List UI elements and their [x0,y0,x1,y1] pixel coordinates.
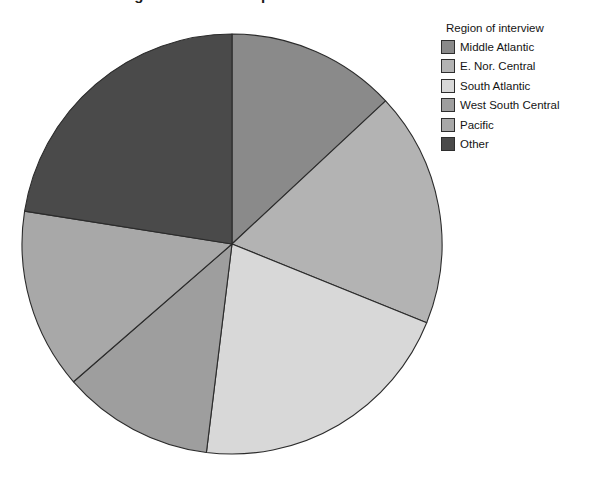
legend-items: Middle AtlanticE. Nor. CentralSouth Atla… [441,37,599,154]
legend-swatch-icon [441,40,455,54]
legend: Region of interview Middle AtlanticE. No… [441,22,599,154]
legend-item: South Atlantic [441,76,599,96]
legend-item-label: West South Central [460,98,560,112]
legend-item-label: South Atlantic [460,79,530,93]
pie-chart-svg [21,33,443,455]
pie-slice [25,34,232,244]
legend-swatch-icon [441,98,455,112]
pie-chart [21,33,443,455]
legend-swatch-icon [441,79,455,93]
legend-swatch-icon [441,118,455,132]
legend-item: E. Nor. Central [441,57,599,77]
legend-swatch-icon [441,137,455,151]
legend-swatch-icon [441,59,455,73]
legend-item-label: Other [460,137,489,151]
legend-item-label: E. Nor. Central [460,59,535,73]
legend-item: Pacific [441,115,599,135]
legend-title: Region of interview [446,22,599,34]
legend-item-label: Pacific [460,118,494,132]
legend-item: Other [441,135,599,155]
page-title: Region of interview pie chart [0,0,440,3]
legend-item: Middle Atlantic [441,37,599,57]
legend-item-label: Middle Atlantic [460,40,534,54]
legend-item: West South Central [441,96,599,116]
pie-slice-group [22,34,442,454]
